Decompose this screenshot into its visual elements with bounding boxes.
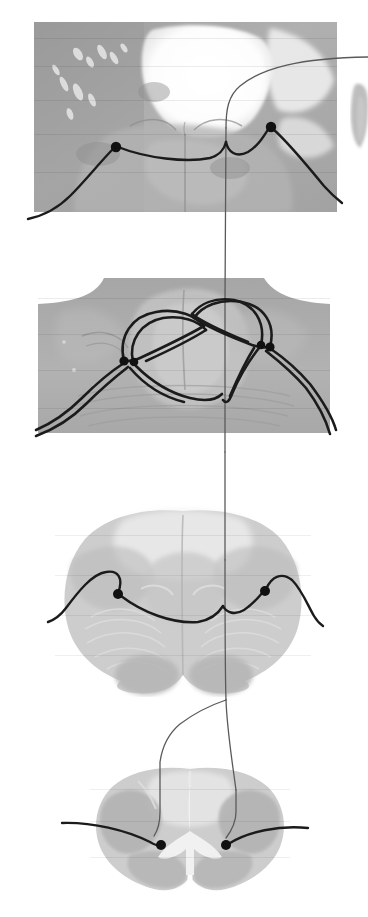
- panel-lower-pons-cerebellum-section: [55, 505, 311, 697]
- midbrain-image: [34, 22, 337, 212]
- tissue-fragment-image: [350, 82, 368, 152]
- panel-midbrain-section: [34, 22, 337, 212]
- vertical-connector-trace: [225, 128, 236, 838]
- neuroanatomy-figure: Brainstem and spinal cord cross-section …: [0, 0, 368, 917]
- medulla-spinal-cord-image: [90, 765, 290, 897]
- figure-title: Brainstem and spinal cord cross-section …: [0, 0, 1, 1]
- panel-medulla-spinal-cord-section: [90, 765, 290, 897]
- upper-pons-image: [38, 278, 330, 433]
- panel-upper-pons-section: [38, 278, 330, 433]
- lower-pons-cerebellum-image: [55, 505, 311, 697]
- tissue-fragment-right: [350, 82, 368, 152]
